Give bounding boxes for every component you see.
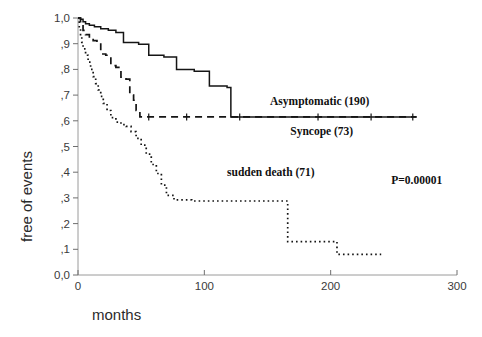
y-tick-label: 1,0 (54, 12, 70, 24)
y-tick-label: ,7 (60, 89, 70, 101)
y-tick-label: ,6 (60, 115, 70, 127)
y-tick-label: ,4 (60, 166, 70, 178)
p-value-label: P=0.00001 (391, 174, 442, 186)
y-tick-label: ,8 (60, 63, 70, 75)
axis-lines (78, 18, 457, 275)
y-axis-title: free of events (18, 151, 35, 242)
y-tick-label: ,3 (60, 192, 70, 204)
y-tick-label: ,2 (60, 218, 70, 230)
series-label-0: Asymptomatic (190) (270, 95, 369, 108)
y-axis-ticks: 0,0,1,2,3,4,5,6,7,8,91,0 (54, 12, 78, 281)
y-tick-label: 0,0 (54, 269, 70, 281)
survival-chart-figure: 0,0,1,2,3,4,5,6,7,8,91,0 0100200300 Asym… (0, 0, 482, 337)
survival-curves (78, 18, 417, 254)
series-label-2: sudden death (71) (227, 166, 315, 179)
y-tick-label: ,1 (60, 243, 70, 255)
kaplan-meier-plot: 0,0,1,2,3,4,5,6,7,8,91,0 0100200300 Asym… (0, 0, 482, 337)
x-tick-label: 200 (321, 280, 340, 292)
x-tick-label: 100 (195, 280, 214, 292)
y-tick-label: ,5 (60, 141, 70, 153)
y-tick-label: ,9 (60, 38, 70, 50)
series-annotations: Asymptomatic (190)Syncope (73)sudden dea… (227, 95, 442, 185)
x-axis-title: months (92, 306, 141, 323)
series-label-1: Syncope (73) (290, 125, 353, 138)
x-tick-label: 0 (75, 280, 81, 292)
x-axis-ticks: 0100200300 (75, 270, 467, 292)
x-tick-label: 300 (447, 280, 466, 292)
